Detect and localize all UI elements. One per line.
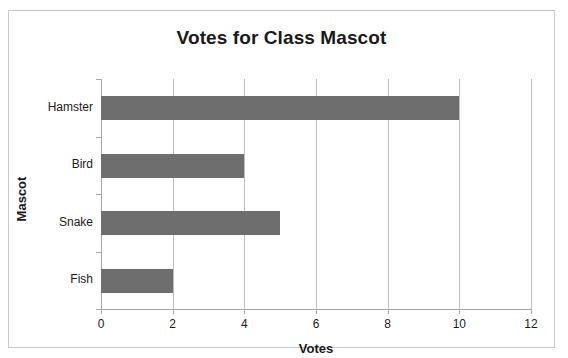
- y-tick-0: [96, 137, 101, 138]
- x-tick-4: [244, 309, 245, 314]
- y-tick-top: [96, 79, 101, 80]
- y-tick-label-fish: Fish: [9, 272, 93, 286]
- x-tick-10: [459, 309, 460, 314]
- x-tick-label-12: 12: [511, 317, 551, 331]
- x-tick-label-6: 6: [296, 317, 336, 331]
- bar-bird[interactable]: [101, 154, 244, 178]
- y-tick-label-bird: Bird: [9, 157, 93, 171]
- plot-area: [101, 79, 531, 309]
- y-tick-1: [96, 194, 101, 195]
- x-tick-label-8: 8: [368, 317, 408, 331]
- x-tick-label-4: 4: [224, 317, 264, 331]
- y-tick-2: [96, 252, 101, 253]
- x-tick-8: [388, 309, 389, 314]
- bar-row: [101, 194, 531, 252]
- x-tick-label-0: 0: [81, 317, 121, 331]
- bar-row: [101, 137, 531, 195]
- x-tick-12: [531, 309, 532, 314]
- y-tick-3: [96, 309, 101, 310]
- x-tick-label-10: 10: [439, 317, 479, 331]
- gridline-x-12: [531, 79, 532, 309]
- bar-row: [101, 79, 531, 137]
- x-tick-label-2: 2: [153, 317, 193, 331]
- x-axis-title: Votes: [101, 341, 531, 356]
- y-tick-label-hamster: Hamster: [9, 100, 93, 114]
- x-tick-0: [101, 309, 102, 314]
- chart-title: Votes for Class Mascot: [9, 27, 554, 49]
- chart-figure-frame: Votes for Class Mascot Mascot Votes 0246…: [8, 10, 555, 348]
- bar-snake[interactable]: [101, 211, 280, 235]
- bar-hamster[interactable]: [101, 96, 459, 120]
- x-tick-6: [316, 309, 317, 314]
- x-tick-2: [173, 309, 174, 314]
- bar-fish[interactable]: [101, 269, 173, 293]
- y-tick-label-snake: Snake: [9, 215, 93, 229]
- bar-row: [101, 252, 531, 310]
